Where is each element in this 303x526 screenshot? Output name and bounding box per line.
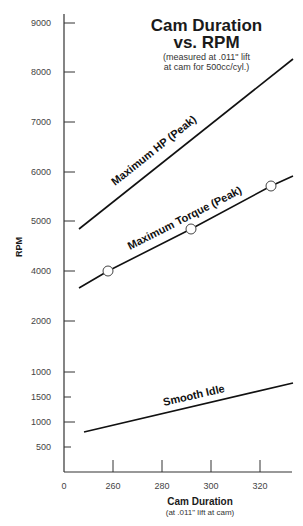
- label-smooth-idle: Smooth Idle: [162, 382, 226, 408]
- y-tick-label: 7000: [0, 117, 51, 127]
- x-axis-label: Cam Duration: [130, 496, 270, 507]
- x-ticks: [113, 460, 260, 472]
- label-max-torque: Maximum Torque (Peak): [125, 184, 243, 252]
- y-tick-label: 4000: [0, 266, 51, 276]
- y-ticks: [64, 23, 75, 447]
- x-tick-label: 0: [49, 481, 79, 491]
- torque-marker: [103, 266, 113, 276]
- y-tick-label: 1000: [0, 367, 51, 377]
- y-tick-label: 8000: [0, 67, 51, 77]
- y-tick-label: 5000: [0, 216, 51, 226]
- torque-marker: [266, 181, 276, 191]
- y-tick-label: 1000: [0, 417, 51, 427]
- x-tick-label: 320: [245, 481, 275, 491]
- y-tick-label: 500: [0, 442, 51, 452]
- y-tick-label: 1500: [0, 392, 51, 402]
- series-max-hp-line: [79, 59, 293, 229]
- y-axis-label: RPM: [14, 237, 24, 257]
- y-tick-label: 2000: [0, 316, 51, 326]
- y-tick-label: 9000: [0, 18, 51, 28]
- x-tick-label: 280: [147, 481, 177, 491]
- x-tick-label: 260: [98, 481, 128, 491]
- y-tick-label: 6000: [0, 167, 51, 177]
- x-tick-label: 300: [196, 481, 226, 491]
- label-max-hp: Maximum HP (Peak): [109, 113, 199, 188]
- torque-marker: [186, 224, 196, 234]
- x-axis-sublabel: (at .011" lift at cam): [130, 508, 270, 517]
